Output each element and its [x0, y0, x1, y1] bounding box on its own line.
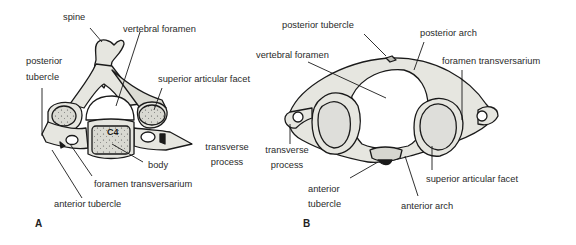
label-superior-articular-facet-b: superior articular facet [426, 172, 518, 186]
label-transverse-process-b-line2: process [262, 158, 312, 172]
cervical-vertebra-c4-drawing [42, 40, 192, 159]
label-superior-articular-facet-a: superior articular facet [158, 72, 250, 86]
label-anterior-arch: anterior arch [401, 199, 453, 213]
vertebrae-figure: spine vertebral foramen posterior tuberc… [0, 0, 576, 245]
label-transverse-process-b-line1: transverse [262, 143, 312, 157]
label-foramen-transversarium-b: foramen transversarium [442, 54, 540, 68]
label-spine: spine [63, 10, 85, 24]
label-posterior-tubercle-a-line1: posterior [26, 54, 62, 68]
atlas-vertebra-drawing [285, 56, 498, 165]
label-posterior-tubercle-a-line2: tubercle [26, 70, 59, 84]
panel-letter-b: B [303, 218, 310, 229]
label-anterior-tubercle-b-line2: tubercle [308, 197, 341, 211]
label-transverse-process-a-line1: transverse [202, 140, 252, 154]
label-foramen-transversarium-a: foramen transversarium [94, 177, 192, 191]
label-posterior-arch: posterior arch [420, 26, 477, 40]
label-transverse-process-a-line2: process [202, 155, 252, 169]
label-anterior-tubercle-b-line1: anterior [308, 182, 340, 196]
label-body: body [148, 158, 168, 172]
panel-letter-a: A [35, 218, 42, 229]
label-vertebral-foramen-a: vertebral foramen [123, 22, 196, 36]
vertebra-level-c4: C4 [107, 127, 119, 137]
label-vertebral-foramen-b: vertebral foramen [256, 48, 329, 62]
label-posterior-tubercle-b: posterior tubercle [282, 18, 354, 32]
label-anterior-tubercle-a: anterior tubercle [54, 197, 121, 211]
